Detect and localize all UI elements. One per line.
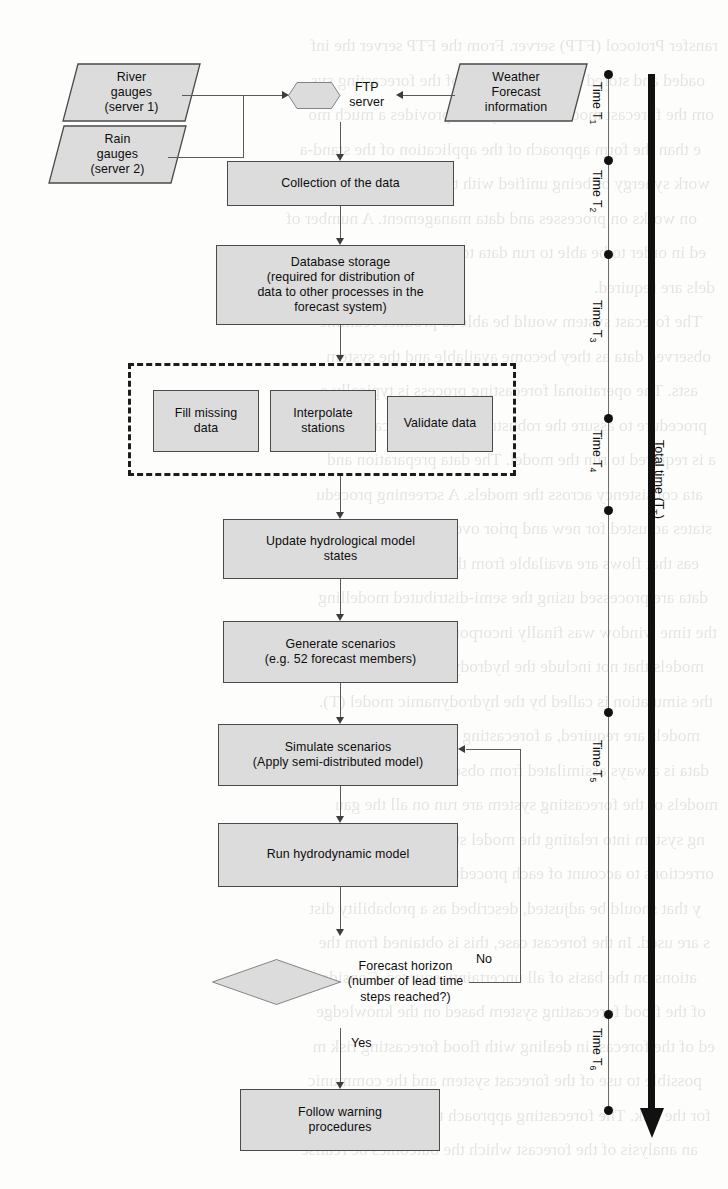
node-simulate-line1: Simulate scenarios bbox=[249, 740, 427, 755]
time-axis-label-t4-sub: 4 bbox=[588, 468, 598, 473]
connector-yes-branch bbox=[340, 1028, 341, 1086]
node-database-storage: Database storage (required for distribut… bbox=[216, 245, 465, 325]
node-river-gauges-line2: gauges bbox=[62, 85, 201, 100]
total-time-label: Total time (TT) bbox=[649, 440, 666, 519]
connector-simulate-to-hydrodynamic bbox=[340, 786, 341, 820]
time-axis-dot-t6-end bbox=[604, 1106, 613, 1115]
arrow-into-simulate bbox=[336, 717, 344, 724]
arrow-into-follow-warning bbox=[336, 1082, 344, 1089]
node-database-line1: Database storage bbox=[253, 255, 427, 270]
node-interpolate-stations: Interpolate stations bbox=[270, 390, 376, 452]
time-axis-dot-t3-end bbox=[604, 414, 613, 423]
connector-generate-to-simulate bbox=[340, 683, 341, 721]
node-rain-gauges: Rain gauges (server 2) bbox=[48, 125, 187, 184]
time-axis-label-t3-sub: 3 bbox=[588, 338, 598, 343]
time-axis-label-t6-sub: 6 bbox=[588, 1066, 598, 1071]
time-axis-label-t5-sub: 5 bbox=[588, 778, 598, 783]
time-axis-label-t6-text: Time T bbox=[590, 1028, 604, 1066]
total-time-label-close: ) bbox=[652, 515, 666, 519]
edge-label-no: No bbox=[476, 952, 492, 966]
arrow-into-database bbox=[336, 238, 344, 245]
time-axis-label-t2: Time T2 bbox=[588, 170, 604, 212]
node-database-line4: forecast system) bbox=[253, 300, 427, 315]
time-axis-dot-t5-start bbox=[604, 708, 613, 717]
node-ftp-server: FTP server bbox=[288, 68, 393, 122]
node-simulate-line2: (Apply semi-distributed model) bbox=[249, 755, 427, 770]
time-axis-line bbox=[608, 74, 609, 1114]
time-axis-label-t1: Time T1 bbox=[588, 82, 604, 124]
node-weather-line1: Weather bbox=[444, 70, 588, 85]
connector-junction-to-ftp bbox=[243, 95, 285, 96]
node-ftp-server-line1: FTP bbox=[341, 80, 394, 95]
time-axis: Time T1 Time T2 Time T3 Time T4 Time T5 … bbox=[560, 40, 728, 1160]
connector-preprocessing-to-update bbox=[340, 476, 341, 516]
node-decision-line2: (number of lead time bbox=[341, 974, 470, 989]
node-decision-line3: steps reached?) bbox=[341, 990, 470, 1005]
node-update-hydrological-model-states: Update hydrological model states bbox=[223, 519, 458, 579]
node-fill-missing-line1: Fill missing bbox=[171, 406, 241, 421]
node-river-gauges-line1: River bbox=[62, 70, 201, 85]
time-axis-label-t1-sub: 1 bbox=[588, 120, 598, 125]
arrow-into-update-states bbox=[336, 512, 344, 519]
node-validate-label: Validate data bbox=[400, 416, 481, 431]
arrow-into-hydrodynamic bbox=[336, 816, 344, 823]
arrow-into-generate bbox=[336, 614, 344, 621]
time-axis-label-t5-text: Time T bbox=[590, 740, 604, 778]
arrow-into-simulate-feedback bbox=[458, 745, 465, 753]
node-simulate-scenarios: Simulate scenarios (Apply semi-distribut… bbox=[218, 724, 458, 786]
node-update-line2: states bbox=[262, 549, 419, 564]
connector-update-to-generate bbox=[340, 579, 341, 618]
node-interpolate-line1: Interpolate bbox=[289, 406, 357, 421]
node-interpolate-line2: stations bbox=[289, 421, 357, 436]
connector-collection-to-database bbox=[340, 206, 341, 242]
node-ftp-server-line2: server bbox=[341, 95, 394, 110]
node-river-gauges-line3: (server 1) bbox=[62, 100, 201, 115]
node-collection-label: Collection of the data bbox=[277, 176, 404, 191]
time-axis-label-t2-sub: 2 bbox=[588, 208, 598, 213]
node-update-line1: Update hydrological model bbox=[262, 534, 419, 549]
node-weather-line2: Forecast bbox=[444, 85, 588, 100]
connector-no-branch-vertical bbox=[520, 749, 521, 982]
time-axis-dot-t1-end bbox=[604, 156, 613, 165]
node-follow-warning-procedures: Follow warning procedures bbox=[240, 1089, 440, 1151]
connector-no-branch-horizontal-top bbox=[466, 749, 521, 750]
time-axis-label-t4-text: Time T bbox=[590, 430, 604, 468]
node-rain-gauges-line3: (server 2) bbox=[48, 162, 187, 177]
time-axis-label-t4: Time T4 bbox=[588, 430, 604, 472]
connector-junction-vertical bbox=[243, 95, 244, 158]
diamond-shape bbox=[212, 959, 341, 1005]
node-follow-warning-line2: procedures bbox=[294, 1120, 386, 1135]
time-axis-dot-t1-start bbox=[604, 70, 613, 79]
time-axis-label-t6: Time T6 bbox=[588, 1028, 604, 1070]
connector-ftp-to-collection bbox=[340, 122, 341, 158]
total-time-label-text: Total time (T bbox=[652, 440, 666, 509]
total-time-arrow-head bbox=[640, 1108, 664, 1138]
time-axis-label-t5: Time T5 bbox=[588, 740, 604, 782]
node-fill-missing-data: Fill missing data bbox=[153, 390, 259, 452]
time-axis-label-t2-text: Time T bbox=[590, 170, 604, 208]
total-time-arrow-shaft bbox=[648, 74, 655, 1114]
time-axis-label-t3: Time T3 bbox=[588, 300, 604, 342]
node-follow-warning-line1: Follow warning bbox=[294, 1105, 386, 1120]
edge-label-yes: Yes bbox=[351, 1036, 372, 1050]
arrow-into-ftp-right bbox=[396, 91, 403, 99]
arrow-into-decision bbox=[336, 929, 344, 936]
time-axis-dot-t4-end bbox=[604, 506, 613, 515]
node-decision-line1: Forecast horizon bbox=[341, 959, 470, 974]
node-run-hydrodynamic-model: Run hydrodynamic model bbox=[218, 823, 458, 887]
node-database-line2: (required for distribution of bbox=[253, 270, 427, 285]
node-collection-of-data: Collection of the data bbox=[227, 161, 454, 206]
node-database-line3: data to other processes in the bbox=[253, 285, 427, 300]
node-generate-line1: Generate scenarios bbox=[261, 637, 420, 652]
node-rain-gauges-line2: gauges bbox=[48, 147, 187, 162]
figure-page: ransfer Protocol (FTP) server. From the … bbox=[0, 0, 728, 1189]
connector-no-branch-horizontal-bottom bbox=[469, 982, 521, 983]
node-weather-forecast-information: Weather Forecast information bbox=[444, 63, 588, 122]
arrow-into-collection bbox=[336, 154, 344, 161]
hexagon-shape bbox=[288, 82, 341, 109]
time-axis-dot-t5-end bbox=[604, 1010, 613, 1019]
node-fill-missing-line2: data bbox=[171, 421, 241, 436]
node-forecast-horizon-decision: Forecast horizon (number of lead time st… bbox=[212, 936, 470, 1028]
time-axis-label-t3-text: Time T bbox=[590, 300, 604, 338]
node-hydrodynamic-label: Run hydrodynamic model bbox=[263, 847, 414, 862]
